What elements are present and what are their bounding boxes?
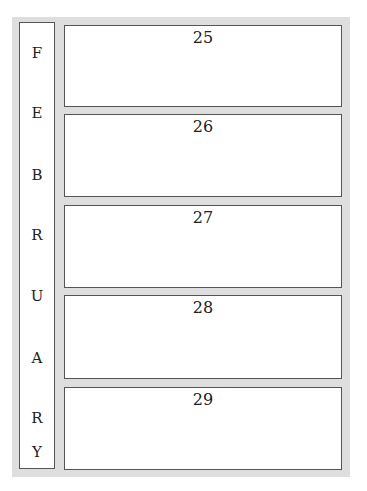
day-number: 28 [65,298,341,317]
day-number: 26 [65,117,341,136]
month-letter: U [20,288,54,304]
day-box-27[interactable]: 27 [64,205,342,288]
month-column: F E B R U A R [19,22,55,469]
day-box-29[interactable]: 29 [64,387,342,470]
month-letter: E [20,105,54,121]
day-number: 25 [65,28,341,47]
month-letter: R [20,410,54,426]
day-box-28[interactable]: 28 [64,295,342,379]
day-number: 29 [65,390,341,409]
month-letter: Y [19,444,55,460]
day-box-26[interactable]: 26 [64,114,342,197]
month-letter: R [20,227,54,243]
month-letter: A [20,350,54,366]
month-letter: F [20,45,54,61]
day-number: 27 [65,208,341,227]
day-box-25[interactable]: 25 [64,25,342,107]
month-letter: B [20,167,54,183]
